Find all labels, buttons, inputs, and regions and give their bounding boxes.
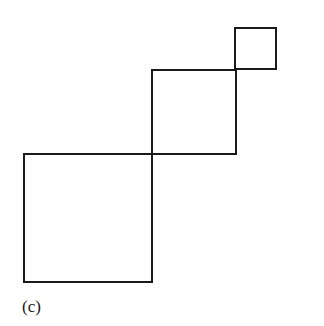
small-square	[235, 28, 276, 69]
medium-square	[152, 70, 236, 154]
large-square	[24, 154, 152, 282]
squares-diagram	[0, 0, 324, 326]
figure-label: (c)	[22, 297, 41, 317]
